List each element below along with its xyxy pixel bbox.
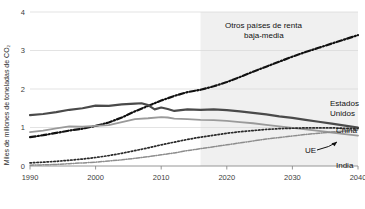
x-tick-label-2020: 2020	[218, 173, 235, 182]
label-estados-unidos-line1: Estados	[330, 99, 359, 108]
x-tick-label-2000: 2000	[87, 173, 104, 182]
y-tick-label-3: 3	[21, 46, 25, 55]
y-axis-title-text: Miles de millones de toneladas de CO₂	[3, 44, 10, 165]
label-china: China	[336, 126, 357, 135]
y-tick-label-0: 0	[21, 162, 25, 171]
label-otros-paises-line1: Otros países de renta	[225, 21, 302, 30]
y-axis-title: Miles de millones de toneladas de CO₂	[3, 44, 10, 165]
chart-container: 01234 199020002010202020302040 Miles de …	[0, 0, 365, 209]
emissions-line-chart: 01234 199020002010202020302040 Miles de …	[0, 0, 365, 209]
x-tick-label-2030: 2030	[284, 173, 301, 182]
y-tick-label-2: 2	[21, 85, 25, 94]
label-india: India	[336, 161, 354, 170]
label-estados-unidos-line2: Unidos	[330, 109, 355, 118]
x-tick-label-1990: 1990	[22, 173, 39, 182]
y-tick-label-4: 4	[21, 8, 25, 17]
label-ue: UE	[305, 146, 316, 155]
label-otros-paises-line2: baja-media	[244, 31, 284, 40]
x-tick-label-2010: 2010	[153, 173, 170, 182]
y-tick-label-1: 1	[21, 123, 25, 132]
x-tick-label-2040: 2040	[350, 173, 365, 182]
